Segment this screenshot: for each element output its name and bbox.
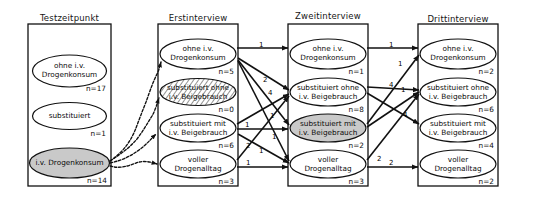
node-count-e-ohne: n=5 <box>188 67 234 76</box>
node-count-z-so: n=8 <box>318 105 364 114</box>
flow-label-e-sm-z-sm: 1 <box>245 121 249 129</box>
flow-label-z-voll-d-voll: 2 <box>389 159 393 167</box>
node-count-z-voll: n=3 <box>318 177 364 186</box>
node-count-d-voll: n=2 <box>448 177 494 186</box>
flow-diagram: Testzeitpunkt Erstinterview Zweitintervi… <box>0 0 556 202</box>
flow-label-e-ohne-z-sm: 1 <box>270 112 274 120</box>
flow-label-e-sm-z-so: 4 <box>268 89 272 97</box>
flows-testzeitpunkt-to-erstinterview <box>110 62 161 167</box>
flow-label-e-ohne-z-ohne: 1 <box>259 41 263 49</box>
flow-label-e-ohne-z-voll: 1 <box>272 133 276 141</box>
flow-label-e-sm-z-voll: 1 <box>259 147 263 155</box>
node-d-so <box>420 78 496 106</box>
flow-label-e-voll-z-so: 2 <box>246 142 250 150</box>
flow-t-iv-to-e-ohne <box>110 62 161 161</box>
node-t-ohne <box>33 55 107 87</box>
flow-label-z-so-d-sm: 4 <box>403 111 407 119</box>
node-d-voll <box>420 150 496 178</box>
flow-e-ohne-to-z-so <box>238 58 289 90</box>
flow-label-z-voll-d-so: 2 <box>377 155 381 163</box>
flow-t-iv-to-e-sm <box>110 134 156 163</box>
node-count-e-sm: n=6 <box>188 141 234 150</box>
node-e-ohne <box>160 39 236 69</box>
node-count-z-sm: n=2 <box>318 141 364 150</box>
node-count-e-voll: n=3 <box>188 177 234 186</box>
flow-label-z-ohne-d-ohne: 1 <box>389 41 393 49</box>
node-z-sm <box>290 114 366 142</box>
flows-zweitinterview-to-drittinterview <box>367 48 419 167</box>
node-z-ohne <box>290 39 366 69</box>
node-count-e-so: n=0 <box>188 105 234 114</box>
flow-label-e-ohne-z-so: 2 <box>263 76 267 84</box>
flow-label-z-sm-d-so: 1 <box>401 86 405 94</box>
node-count-t-ohne: n=17 <box>60 84 106 93</box>
column-title-erstinterview: Erstinterview <box>158 13 238 23</box>
flow-label-e-voll-z-voll: 1 <box>246 159 250 167</box>
column-title-testzeitpunkt: Testzeitpunkt <box>28 13 111 23</box>
flow-z-voll-to-d-so <box>367 94 419 160</box>
node-t-iv <box>30 148 110 178</box>
flow-label-z-so-d-so: 4 <box>389 81 393 89</box>
column-title-drittinterview: Drittinterview <box>418 14 498 24</box>
flow-label-z-sm-d-ohne: 1 <box>398 60 402 68</box>
node-z-so <box>290 78 366 106</box>
flow-t-iv-to-e-so <box>110 98 159 161</box>
node-e-voll <box>160 150 236 178</box>
diagram-canvas <box>0 0 556 202</box>
node-z-voll <box>290 150 366 178</box>
node-count-z-ohne: n=1 <box>318 67 364 76</box>
node-count-t-iv: n=14 <box>60 176 107 185</box>
flow-t-iv-to-e-voll <box>110 161 157 167</box>
flow-e-ohne-to-z-sm <box>238 60 289 125</box>
node-count-d-so: n=6 <box>448 105 494 114</box>
node-d-ohne <box>420 39 496 69</box>
column-title-zweitinterview: Zweitinterview <box>288 11 368 21</box>
node-count-d-ohne: n=2 <box>448 67 494 76</box>
node-d-sm <box>420 114 496 142</box>
node-e-sm <box>160 114 236 142</box>
nodes-testzeitpunkt <box>30 55 110 178</box>
node-t-subst <box>33 103 107 130</box>
flow-e-sm-to-z-so <box>237 94 289 124</box>
node-e-so <box>160 79 236 106</box>
node-count-t-subst: n=1 <box>60 129 106 138</box>
node-count-d-sm: n=4 <box>448 141 494 150</box>
